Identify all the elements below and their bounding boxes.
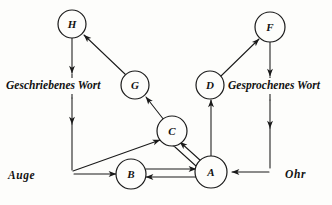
edge-C-to-A — [175, 147, 196, 166]
diagram-canvas: H F G D C B — [0, 0, 332, 205]
node-D-label: D — [205, 79, 214, 91]
edge-A-to-C — [180, 142, 201, 161]
node-C[interactable]: C — [157, 116, 187, 146]
node-B-label: B — [126, 168, 134, 180]
node-G[interactable]: G — [121, 71, 149, 99]
written-word-label: Geschriebenes Wort — [6, 79, 101, 91]
eye-label: Auge — [7, 169, 35, 182]
spoken-word-label: Gesprochenes Wort — [228, 79, 321, 92]
node-D[interactable]: D — [196, 71, 224, 99]
edge-eye-to-C — [73, 140, 160, 171]
node-F[interactable]: F — [255, 12, 285, 42]
node-G-label: G — [131, 79, 139, 91]
node-C-label: C — [168, 125, 176, 137]
nodes-layer: H F G D C B — [58, 10, 285, 189]
node-A-label: A — [206, 166, 214, 178]
diagram-svg: H F G D C B — [0, 0, 332, 205]
edge-D-to-F — [221, 39, 259, 76]
node-B[interactable]: B — [116, 159, 146, 189]
edges-layer — [72, 35, 270, 177]
node-F-label: F — [265, 21, 274, 33]
ear-label: Ohr — [285, 168, 306, 180]
node-A[interactable]: A — [195, 156, 227, 188]
edge-C-to-G — [146, 97, 164, 120]
node-H[interactable]: H — [58, 10, 86, 38]
node-H-label: H — [67, 18, 77, 30]
edge-G-to-H — [84, 35, 126, 75]
